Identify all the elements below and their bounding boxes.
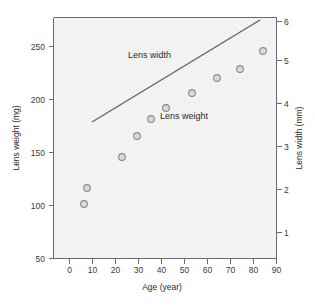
ytick-label-250: 250 [31,42,45,52]
y2tick-label-6: 6 [284,17,289,27]
ytick-label-200: 200 [31,95,45,105]
y2tick-label-2: 2 [284,185,289,195]
data-point [81,201,88,208]
y-axis-right-ticks: 1 2 3 4 5 6 [277,17,290,238]
data-point [134,133,141,140]
y-axis-left-title: Lens weight (mg) [11,105,21,170]
x-axis-ticks: 0 10 20 30 40 50 60 70 80 90 [67,259,281,276]
xtick-label-20: 20 [111,265,121,275]
data-point [148,116,155,123]
data-point [119,154,126,161]
y2tick-label-1: 1 [284,228,289,238]
y2tick-label-5: 5 [284,56,289,66]
xtick-label-80: 80 [249,265,259,275]
data-point [189,90,196,97]
chart-figure: 50 100 150 200 250 1 2 3 4 5 6 [0,0,315,307]
ytick-label-150: 150 [31,148,45,158]
scatter-plot: 50 100 150 200 250 1 2 3 4 5 6 [0,0,315,307]
xtick-label-10: 10 [88,265,98,275]
x-axis-title: Age (year) [142,282,182,292]
y-axis-right-title: Lens width (mm) [294,106,304,169]
xtick-label-60: 60 [203,265,213,275]
y-axis-left-ticks: 50 100 150 200 250 [31,42,54,264]
y2tick-label-3: 3 [284,142,289,152]
y2tick-label-4: 4 [284,99,289,109]
data-point [237,66,244,73]
xtick-label-70: 70 [226,265,236,275]
xtick-label-40: 40 [157,265,167,275]
xtick-label-0: 0 [67,265,72,275]
lens-weight-annotation: Lens weight [160,111,209,121]
lens-width-annotation: Lens width [128,50,171,60]
xtick-label-50: 50 [180,265,190,275]
ytick-label-50: 50 [36,254,46,264]
ytick-label-100: 100 [31,201,45,211]
xtick-label-30: 30 [134,265,144,275]
data-point [260,48,267,55]
data-point [214,75,221,82]
data-point [84,185,91,192]
xtick-label-90: 90 [272,265,282,275]
